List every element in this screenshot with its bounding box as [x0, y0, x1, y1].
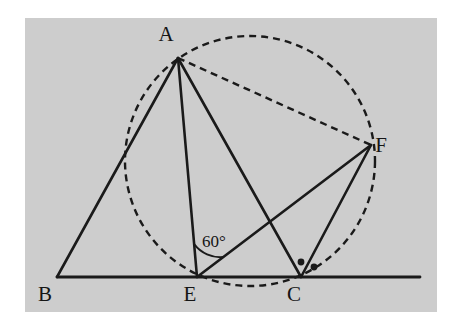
- geometry-canvas: A B E C F 60°: [0, 0, 461, 330]
- angle-dot-ACF: [298, 259, 305, 266]
- angle-dot-FCX: [311, 264, 318, 271]
- vertex-label-B: B: [38, 282, 52, 306]
- geometry-figure: A B E C F 60°: [0, 0, 461, 330]
- vertex-label-A: A: [158, 22, 174, 46]
- angle-label-60deg: 60°: [202, 232, 226, 251]
- vertex-label-E: E: [184, 282, 197, 306]
- vertex-label-F: F: [375, 133, 387, 157]
- vertex-label-C: C: [287, 282, 301, 306]
